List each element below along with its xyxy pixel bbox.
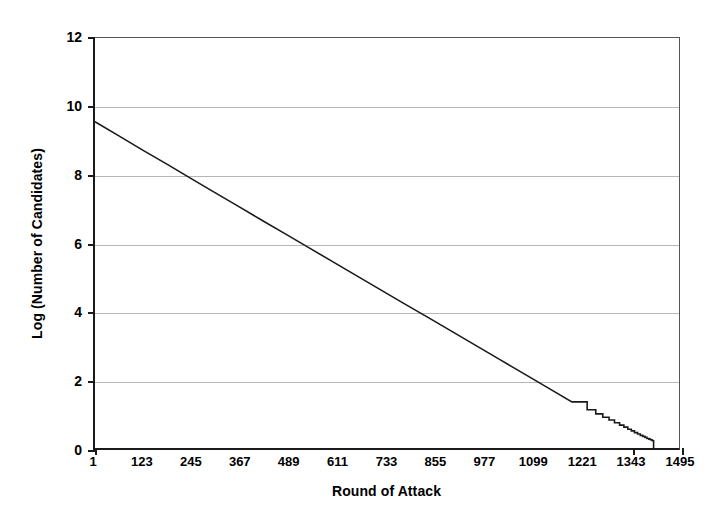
plot-area xyxy=(93,37,680,450)
x-tick-label-855: 855 xyxy=(425,455,447,468)
x-tick-label-733: 733 xyxy=(376,455,398,468)
y-axis-tick-labels: 024681012 xyxy=(40,0,82,528)
x-axis-tick-labels: 1123245367489611733855977109912211343149… xyxy=(0,455,718,475)
x-tick-label-1495: 1495 xyxy=(666,455,695,468)
x-tick-label-123: 123 xyxy=(131,455,153,468)
y-tick-label-4: 4 xyxy=(40,305,82,319)
y-tick-mark-6 xyxy=(88,244,95,246)
x-tick-label-489: 489 xyxy=(278,455,300,468)
y-tick-mark-12 xyxy=(88,37,95,39)
x-tick-label-1343: 1343 xyxy=(617,455,646,468)
x-axis-title: Round of Attack xyxy=(93,483,680,499)
y-tick-label-2: 2 xyxy=(40,374,82,388)
y-tick-mark-0 xyxy=(88,450,95,452)
y-tick-label-10: 10 xyxy=(40,99,82,113)
y-tick-label-12: 12 xyxy=(40,30,82,44)
data-series-line xyxy=(95,38,679,448)
x-tick-label-977: 977 xyxy=(473,455,495,468)
x-tick-label-1221: 1221 xyxy=(568,455,597,468)
x-tick-label-367: 367 xyxy=(229,455,251,468)
y-tick-mark-8 xyxy=(88,175,95,177)
x-tick-label-245: 245 xyxy=(180,455,202,468)
y-tick-mark-2 xyxy=(88,381,95,383)
y-tick-mark-4 xyxy=(88,312,95,314)
chart-container: Log (Number of Candidates) 024681012 112… xyxy=(0,0,718,528)
y-tick-label-6: 6 xyxy=(40,237,82,251)
x-tick-label-611: 611 xyxy=(327,455,348,468)
y-tick-mark-10 xyxy=(88,106,95,108)
x-tick-label-1099: 1099 xyxy=(519,455,548,468)
x-tick-label-1: 1 xyxy=(89,455,96,468)
y-tick-label-8: 8 xyxy=(40,168,82,182)
